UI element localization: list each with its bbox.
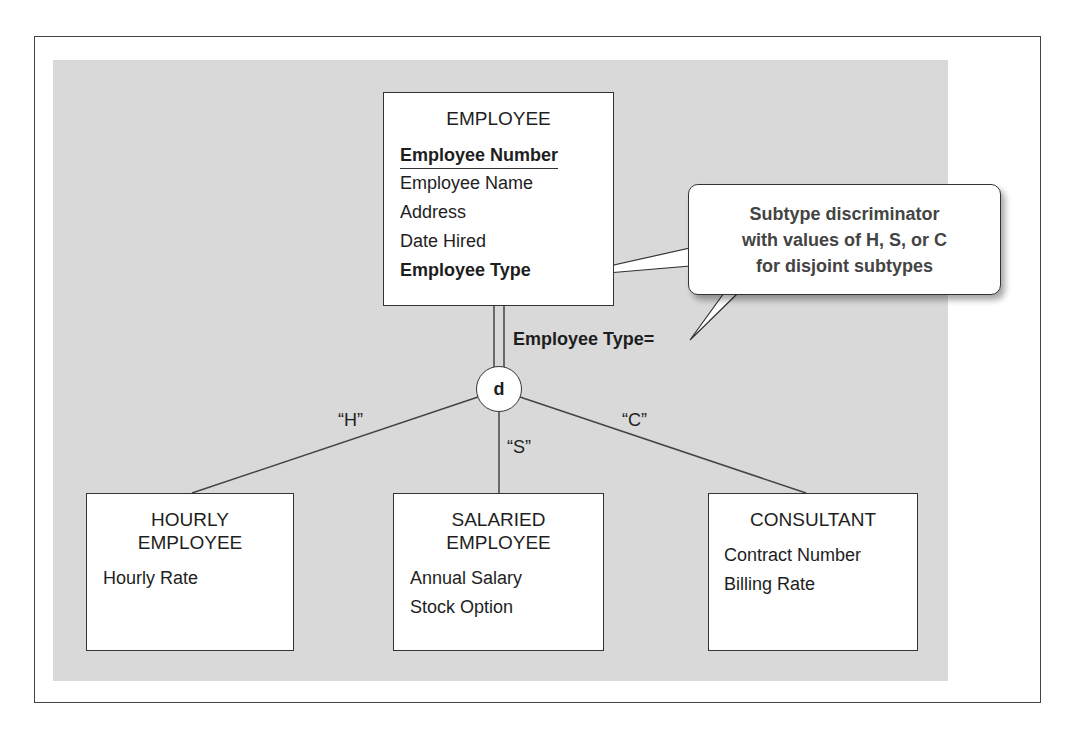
entity-name: EMPLOYEE bbox=[384, 107, 613, 130]
callout-line: with values of H, S, or C bbox=[742, 227, 947, 253]
attribute: Date Hired bbox=[400, 227, 613, 256]
branch-label-salaried: “S” bbox=[507, 437, 531, 458]
attribute: Address bbox=[400, 198, 613, 227]
entity-name: EMPLOYEE bbox=[394, 531, 603, 554]
attribute: Hourly Rate bbox=[103, 564, 293, 593]
entity-name: HOURLY bbox=[87, 508, 293, 531]
callout-note: Subtype discriminator with values of H, … bbox=[688, 184, 1001, 295]
branch-label-consultant: “C” bbox=[622, 410, 647, 431]
attribute: Contract Number bbox=[724, 541, 917, 570]
entity-salaried-employee: SALARIED EMPLOYEE Annual Salary Stock Op… bbox=[393, 493, 604, 651]
attribute: Annual Salary bbox=[410, 564, 603, 593]
entity-name: CONSULTANT bbox=[709, 508, 917, 531]
entity-name: SALARIED bbox=[394, 508, 603, 531]
callout-line: for disjoint subtypes bbox=[742, 253, 947, 279]
attribute: Billing Rate bbox=[724, 570, 917, 599]
callout-line: Subtype discriminator bbox=[742, 201, 947, 227]
discriminator-attribute: Employee Type bbox=[400, 256, 613, 285]
discriminator-label: Employee Type= bbox=[513, 329, 654, 350]
entity-name: EMPLOYEE bbox=[87, 531, 293, 554]
entity-hourly-employee: HOURLY EMPLOYEE Hourly Rate bbox=[86, 493, 294, 651]
branch-label-hourly: “H” bbox=[338, 410, 363, 431]
attribute: Employee Name bbox=[400, 169, 613, 198]
identifier-attribute: Employee Number bbox=[400, 142, 558, 169]
entity-employee: EMPLOYEE Employee Number Employee Name A… bbox=[383, 92, 614, 306]
attribute: Stock Option bbox=[410, 593, 603, 622]
entity-consultant: CONSULTANT Contract Number Billing Rate bbox=[708, 493, 918, 651]
disjoint-symbol: d bbox=[476, 366, 522, 412]
